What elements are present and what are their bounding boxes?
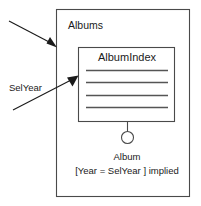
arrow-head-icon [47,37,58,48]
selyear-label: SelYear [9,82,42,93]
arrow-to-albums-container [9,21,57,48]
album-instance-label: Album [114,151,141,162]
albums-container-label: Albums [68,19,103,31]
albumindex-title: AlbumIndex [98,51,157,63]
connector-circle-node[interactable] [122,132,134,144]
albums-object-diagram: Albums AlbumIndex Album [Year = SelYear … [0,0,201,206]
diagram-canvas: Albums AlbumIndex Album [Year = SelYear … [0,0,201,206]
album-condition-label: [Year = SelYear ] implied [75,165,179,176]
